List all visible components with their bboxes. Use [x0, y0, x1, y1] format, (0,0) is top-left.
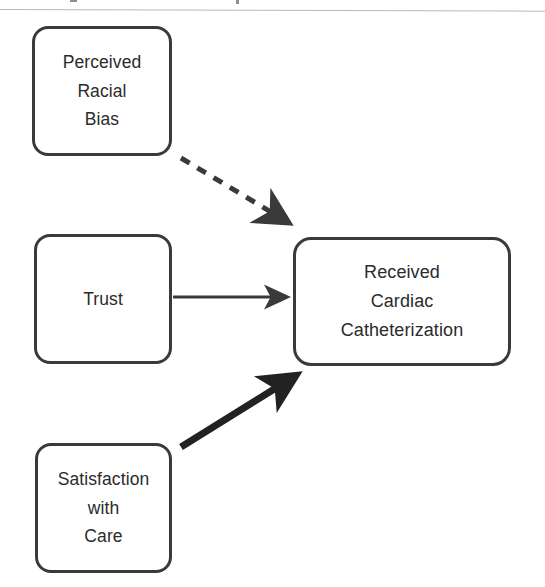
scan-speck-center	[236, 0, 239, 4]
node-label-line-1: Received	[364, 258, 440, 287]
node-label-line-2: with	[88, 494, 120, 522]
node-label-line-3: Care	[84, 522, 122, 550]
node-satisfaction-with-care: Satisfaction with Care	[35, 443, 172, 573]
node-label-line-3: Bias	[85, 105, 119, 133]
node-label-line-1: Trust	[83, 285, 123, 313]
path-diagram-canvas: Perceived Racial Bias Trust Satisfaction…	[0, 0, 545, 587]
node-trust: Trust	[34, 234, 172, 364]
node-label-line-3: Catheterization	[341, 316, 464, 345]
node-received-cardiac-catheterization: Received Cardiac Catheterization	[293, 237, 511, 366]
node-label-line-2: Racial	[77, 77, 126, 105]
node-label-line-1: Satisfaction	[58, 465, 150, 493]
node-label-line-2: Cardiac	[371, 287, 434, 316]
edge-satisfaction-with-care-to-received-cardiac-catheterization	[181, 378, 292, 447]
node-label-line-1: Perceived	[63, 48, 142, 76]
node-perceived-racial-bias: Perceived Racial Bias	[32, 26, 172, 156]
edge-perceived-racial-bias-to-received-cardiac-catheterization	[181, 158, 286, 221]
page-rule-line	[0, 9, 545, 12]
scan-speck-left	[70, 0, 77, 2]
